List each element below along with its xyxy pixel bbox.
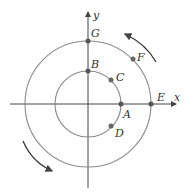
circular-motion-diagram: x y A B C D E F G (0, 0, 188, 193)
point-b (86, 69, 91, 74)
point-a (119, 102, 124, 107)
point-c (109, 78, 114, 83)
label-g: G (91, 27, 100, 40)
rotation-arrow-lower (23, 141, 52, 171)
label-f: F (136, 51, 145, 64)
label-b: B (90, 58, 99, 71)
label-d: D (114, 127, 124, 140)
point-g (86, 39, 91, 44)
label-e: E (156, 91, 165, 104)
label-c: C (116, 71, 125, 84)
x-axis-label: x (174, 91, 181, 104)
point-d (109, 124, 114, 129)
point-f (131, 57, 136, 62)
label-a: A (122, 108, 131, 121)
y-axis-label: y (92, 9, 100, 22)
point-e (149, 102, 154, 107)
